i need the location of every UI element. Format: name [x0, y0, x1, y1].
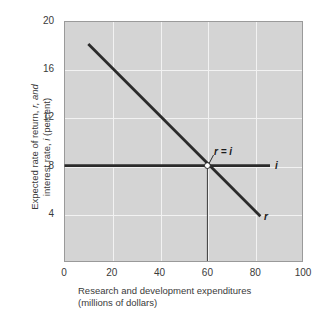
y-axis-title-line1-plain: Expected rate of return,: [29, 108, 40, 210]
x-tick-60: 60: [192, 268, 222, 278]
x-tick-100: 100: [288, 268, 318, 278]
x-tick-20: 20: [97, 268, 127, 278]
x-tick-80: 80: [240, 268, 270, 278]
y-axis-title: Expected rate of return, r, and interest…: [29, 27, 53, 267]
x-tick-0: 0: [49, 268, 79, 278]
series-label-r: r: [264, 211, 268, 222]
x-axis-title-line2: (millions of dollars): [78, 297, 318, 309]
y-axis-title-line2-plain-b: (percent): [41, 98, 52, 139]
y-axis-title-line2: interest rate, i (percent): [41, 27, 53, 267]
chart-figure: 20 16 12 8 4 0 20 40 60 80 100 r = i i r…: [0, 0, 326, 323]
y-axis-title-line2-plain-a: interest rate,: [41, 141, 52, 196]
y-axis-title-line1-italic: r, and: [29, 84, 40, 108]
series-label-i: i: [275, 160, 278, 171]
x-tick-40: 40: [145, 268, 175, 278]
x-axis-title-line1: Research and development expenditures: [78, 285, 318, 297]
x-axis-title: Research and development expenditures (m…: [78, 285, 318, 309]
series-label-r-equals-i: r = i: [214, 146, 232, 157]
y-axis-title-line1: Expected rate of return, r, and: [29, 27, 41, 267]
